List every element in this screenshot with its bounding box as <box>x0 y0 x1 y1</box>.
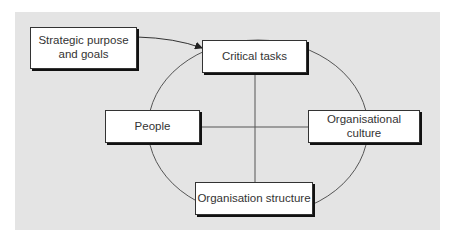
node-label: Organisational culture <box>309 113 419 141</box>
node-label: Organisation structure <box>197 192 310 206</box>
node-label: and goals <box>59 48 109 62</box>
strategy-arrow <box>137 37 202 48</box>
node-critical-tasks: Critical tasks <box>202 40 307 73</box>
node-label: Critical tasks <box>222 50 287 64</box>
node-organisational-culture: Organisational culture <box>308 110 420 143</box>
node-organisation-structure: Organisation structure <box>195 182 313 215</box>
node-people: People <box>105 110 200 143</box>
node-label: Strategic purpose <box>38 34 128 48</box>
node-label: People <box>135 120 171 134</box>
node-strategic-purpose: Strategic purpose and goals <box>30 27 137 69</box>
